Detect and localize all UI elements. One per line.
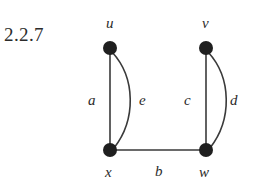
vertex-u [103,41,117,55]
vertex-label-x: x [104,164,112,180]
graph-figure: 2.2.7 u v x w a e c d [0,0,260,188]
graph-canvas: u v x w a e c d b [0,0,260,188]
vertex-label-group: u v x w [104,15,209,180]
vertex-label-w: w [199,164,209,180]
vertex-v [199,41,213,55]
edge-e [112,52,130,148]
vertex-label-u: u [106,15,114,31]
edge-label-e: e [139,92,146,108]
edge-label-b: b [155,163,163,179]
edge-d [208,52,226,148]
edge-label-c: c [184,92,191,108]
vertex-w [199,143,213,157]
edge-label-d: d [230,92,238,108]
vertex-x [103,143,117,157]
edge-label-a: a [88,92,96,108]
vertex-label-v: v [202,15,209,31]
edge-group [110,48,226,150]
